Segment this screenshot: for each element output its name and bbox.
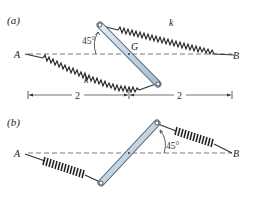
spring-upper-k-label: k	[169, 17, 174, 28]
pin-bottom-b	[99, 181, 103, 185]
center-of-mass-b	[128, 152, 130, 154]
pin-top-b	[155, 121, 159, 125]
angle-label-a: 45°	[82, 36, 96, 46]
part-a-label: (a)	[7, 14, 20, 27]
center-label-g: G	[131, 41, 138, 52]
angle-label-b: 45°	[166, 141, 180, 151]
point-a-label-a: A	[13, 49, 21, 60]
spring-lower-k-label: k	[84, 74, 89, 85]
rigid-bar-spring-diagram: (a) 45° A B G k k	[0, 0, 256, 203]
pin-top-a	[98, 23, 102, 27]
part-b-label: (b)	[7, 116, 20, 129]
left-spring-b	[25, 154, 100, 182]
pin-bottom-a	[156, 82, 160, 86]
part-b: (b)	[7, 116, 239, 185]
point-b-label-b: B	[233, 148, 239, 159]
dimension-left-label: 2	[75, 90, 80, 101]
point-b-label-a: B	[233, 50, 239, 61]
part-a: (a) 45° A B G k k	[7, 14, 239, 101]
dimension-right-label: 2	[177, 90, 182, 101]
center-of-mass-a	[128, 53, 130, 55]
point-a-label-b: A	[13, 148, 21, 159]
